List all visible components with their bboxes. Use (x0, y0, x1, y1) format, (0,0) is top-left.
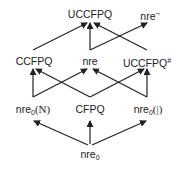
edge-nre0-nre0n (34, 121, 88, 145)
node-nre0-n: nre0(N) (16, 103, 50, 119)
edge-nre0n-nre (33, 69, 87, 97)
node-uccfpq: UCCFPQ (68, 8, 112, 20)
node-ccfpq: CCFPQ (16, 55, 53, 67)
node-uccfpq-hash: UCCFPQ# (123, 55, 171, 69)
node-nre0-bar: nre0(|) (134, 103, 163, 119)
edge-nre0bar-nre (93, 69, 147, 97)
node-cfpq: CFPQ (75, 103, 104, 115)
node-nre0: nre0 (80, 148, 99, 164)
edge-cfpq-ccfpq (36, 69, 90, 97)
node-nre-neg: nre¬ (140, 8, 159, 22)
edge-ccfpq-uccfpq (33, 23, 87, 50)
edge-nre0-nre0bar (92, 121, 146, 145)
edges-layer (0, 0, 182, 172)
node-nre: nre (82, 55, 97, 67)
edge-cfpq-uccfpqhash (90, 69, 144, 97)
